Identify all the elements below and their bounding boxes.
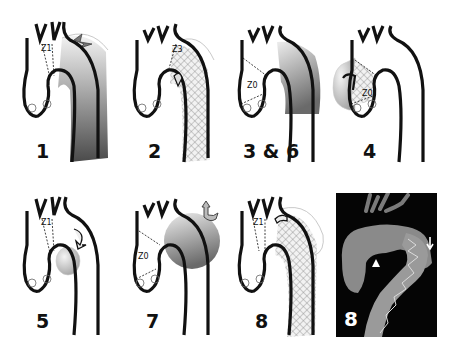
- panel-label: 3 & 6: [243, 140, 299, 162]
- panel-1: Z1 1: [0, 0, 115, 170]
- ct-reconstruction-image: 8: [336, 193, 437, 337]
- panel-label: 1: [36, 140, 49, 162]
- panel-label: 7: [146, 310, 159, 332]
- panel-2: Z3 2: [110, 0, 220, 170]
- zone-label: Z0: [362, 89, 373, 98]
- panel-7: Z0 7: [110, 175, 220, 345]
- zone-label: Z1: [41, 218, 52, 227]
- panel-5: Z1 5: [0, 175, 115, 345]
- aorta-diagram-7: Z0: [110, 175, 220, 345]
- curved-arrow-icon: [74, 229, 86, 249]
- aorta-diagram-5: Z1: [0, 175, 115, 345]
- aorta-diagram-4: Z0: [325, 0, 450, 170]
- aorta-diagram-2: Z3: [110, 0, 220, 170]
- aorta-diagram-1: Z1: [0, 0, 115, 170]
- zone-label: Z1: [41, 44, 52, 53]
- aorta-diagram-8: Z1: [215, 175, 330, 345]
- graft-shading: [58, 36, 108, 162]
- panel-label: 2: [148, 140, 161, 162]
- arrowhead-marker-icon: [372, 259, 380, 267]
- zone-label: Z0: [138, 252, 149, 261]
- panel-label: 8: [344, 307, 358, 331]
- panel-4: Z0 4: [325, 0, 450, 170]
- panel-3-6: Z0 3 & 6: [215, 0, 330, 170]
- zone-label: Z1: [253, 218, 264, 227]
- zone-label: Z3: [172, 45, 183, 54]
- zone-label: Z0: [247, 81, 258, 90]
- panel-label: 5: [36, 310, 49, 332]
- panel-8: Z1 8: [215, 175, 330, 345]
- panel-label: 4: [363, 140, 376, 162]
- panel-label: 8: [255, 310, 268, 332]
- stent-graft-hatch: [275, 214, 317, 337]
- arch-branches: [366, 193, 408, 211]
